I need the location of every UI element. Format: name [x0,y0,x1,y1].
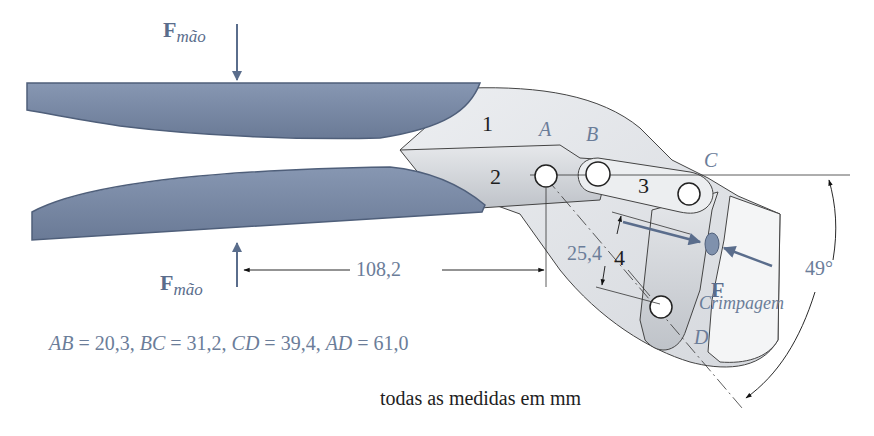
joint-b-pin [586,162,610,186]
joint-d-pin [650,296,672,318]
joint-d-label: D [693,326,709,348]
angle-arc-upper [829,180,836,260]
upper-handle [27,83,480,139]
dim-25-label: 25,4 [567,242,602,264]
joint-a-pin [535,165,557,187]
link-4-label: 4 [614,245,625,270]
hand-force-label-bottom: Fmão [160,270,203,299]
link-lengths-text: AB = 20,3, BC = 31,2, CD = 39,4, AD = 61… [47,332,409,354]
units-note: todas as medidas em mm [380,387,582,409]
link-1-label: 1 [482,111,493,136]
joint-a-label: A [537,118,552,140]
joint-c-pin [678,183,700,205]
angle-49-label: 49° [805,257,833,279]
lower-handle [32,167,485,240]
crimping-tool-diagram: Fmão Fmão 1 2 3 4 A B C D 108,2 25,4 49°… [0,0,874,436]
hand-force-label-top: Fmão [163,17,206,46]
crimp-force-subscript: Crimpagem [699,293,784,313]
joint-c-label: C [704,149,718,171]
crimp-wire [705,233,719,255]
link-3-label: 3 [638,173,649,198]
joint-b-label: B [586,123,598,145]
dim-108-label: 108,2 [356,258,401,280]
link-2-label: 2 [490,164,501,189]
